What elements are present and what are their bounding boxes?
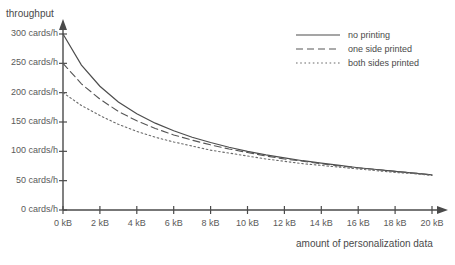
legend-label: no printing — [348, 30, 390, 40]
legend-line-swatch — [296, 44, 340, 54]
x-axis-arrow — [437, 206, 448, 214]
y-axis-arrow — [59, 19, 67, 30]
series-line — [63, 63, 432, 174]
legend-item: both sides printed — [296, 56, 419, 70]
chart-legend: no printingone side printedboth sides pr… — [296, 28, 419, 70]
legend-line-swatch — [296, 30, 340, 40]
legend-item: one side printed — [296, 42, 419, 56]
legend-label: both sides printed — [348, 58, 419, 68]
legend-line-swatch — [296, 58, 340, 68]
legend-label: one side printed — [348, 44, 412, 54]
series-line — [63, 93, 432, 176]
chart-container: throughput amount of personalization dat… — [0, 0, 455, 265]
legend-item: no printing — [296, 28, 419, 42]
